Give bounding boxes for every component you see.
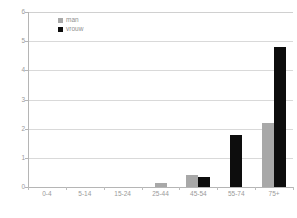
bar-group <box>66 12 104 187</box>
x-axis-tick-label: 0-4 <box>28 191 66 198</box>
bar-groups <box>28 12 293 187</box>
bar-group <box>28 12 66 187</box>
bar-vrouw-75+ <box>274 47 286 187</box>
x-axis-tick-mark <box>28 187 29 190</box>
bar-vrouw-45-54 <box>198 177 210 187</box>
x-axis-tick-mark <box>293 187 294 190</box>
bar-vrouw-55-74 <box>230 135 242 188</box>
bar-group <box>217 12 255 187</box>
bar-group <box>255 12 293 187</box>
x-axis-tick-mark <box>217 187 218 190</box>
x-axis-tick-label: 55-74 <box>217 191 255 198</box>
x-axis-tick-mark <box>179 187 180 190</box>
y-axis-ticks: 0123456 <box>0 0 28 218</box>
bar-chart: 0123456 0-45-1415-2425-4445-5455-7475+ m… <box>0 0 297 218</box>
x-axis-tick-label: 75+ <box>255 191 293 198</box>
legend-item-man: man <box>58 16 83 25</box>
legend-swatch-vrouw-icon <box>58 27 63 32</box>
bar-group <box>142 12 180 187</box>
x-axis-tick-mark <box>255 187 256 190</box>
legend: man vrouw <box>58 16 83 34</box>
x-axis-tick-mark <box>104 187 105 190</box>
legend-swatch-man-icon <box>58 18 63 23</box>
bar-man-25-44 <box>155 183 167 187</box>
x-axis-line <box>28 187 293 188</box>
bar-group <box>104 12 142 187</box>
bar-group <box>179 12 217 187</box>
x-axis-labels: 0-45-1415-2425-4445-5455-7475+ <box>28 191 293 198</box>
bar-man-45-54 <box>186 175 198 187</box>
legend-label-vrouw: vrouw <box>66 26 83 33</box>
legend-item-vrouw: vrouw <box>58 25 83 34</box>
x-axis-tick-label: 15-24 <box>104 191 142 198</box>
x-axis-tick-label: 45-54 <box>179 191 217 198</box>
legend-label-man: man <box>66 17 79 24</box>
x-axis-tick-mark <box>142 187 143 190</box>
x-axis-tick-label: 25-44 <box>142 191 180 198</box>
x-axis-tick-label: 5-14 <box>66 191 104 198</box>
bar-man-75+ <box>262 123 274 187</box>
x-axis-tick-mark <box>66 187 67 190</box>
